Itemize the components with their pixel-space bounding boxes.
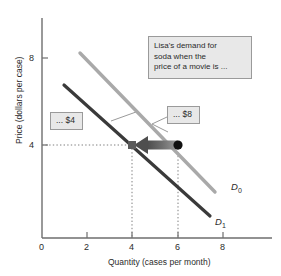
curve-label-d1-subscript: 1 bbox=[222, 222, 226, 229]
curve-label-d1: D1 bbox=[215, 216, 226, 229]
d1-price-annotation-box: ... $4 bbox=[50, 112, 83, 130]
main-annotation-line-1: Lisa's demand for bbox=[154, 41, 246, 52]
x-axis-ticks bbox=[87, 232, 223, 238]
x-tick-label-0: 0 bbox=[39, 243, 44, 252]
y-tick-label-8: 8 bbox=[29, 54, 34, 63]
leader-line-d1 bbox=[111, 112, 136, 121]
point-marker-on-d1 bbox=[128, 141, 136, 149]
x-axis-title: Quantity (cases per month) bbox=[108, 258, 211, 267]
main-annotation-line-3: price of a movie is ... bbox=[154, 62, 246, 73]
point-marker-on-d0 bbox=[173, 140, 182, 149]
y-axis-ticks bbox=[42, 58, 48, 145]
x-tick-label-6: 6 bbox=[175, 243, 180, 252]
d0-price-annotation-box: ... $8 bbox=[167, 106, 200, 124]
main-annotation-line-2: soda when the bbox=[154, 52, 246, 63]
x-tick-label-2: 2 bbox=[84, 243, 89, 252]
y-tick-label-4: 4 bbox=[29, 141, 34, 150]
demand-curve-d1 bbox=[64, 85, 210, 216]
curve-label-d0: D0 bbox=[231, 181, 242, 194]
leftward-shift-arrow bbox=[134, 136, 178, 154]
x-tick-label-4: 4 bbox=[129, 243, 134, 252]
dotted-guides bbox=[42, 145, 178, 238]
curve-label-d0-letter: D bbox=[231, 181, 238, 192]
y-axis-title: Price (dollars per case) bbox=[15, 45, 24, 155]
demand-curve-figure: 8 4 0 2 4 6 8 Price (dollars per case) Q… bbox=[0, 0, 281, 276]
curve-label-d0-subscript: 0 bbox=[238, 187, 242, 194]
leader-line-d0-seg1 bbox=[152, 117, 167, 124]
x-tick-label-8: 8 bbox=[220, 243, 225, 252]
main-annotation-box: Lisa's demand for soda when the price of… bbox=[148, 36, 252, 79]
curve-label-d1-letter: D bbox=[215, 216, 222, 227]
